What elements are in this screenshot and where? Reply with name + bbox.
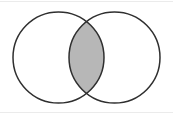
top-edge-artifact-line [0, 1, 173, 2]
bottom-edge-artifact-line [0, 112, 173, 113]
venn-diagram [0, 0, 173, 115]
venn-svg [0, 0, 173, 115]
